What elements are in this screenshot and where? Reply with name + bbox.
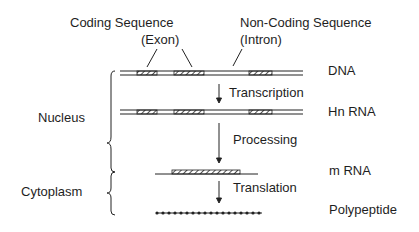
cytoplasm-brace [107, 172, 115, 215]
process-arrows [217, 84, 222, 203]
nucleus-brace [107, 71, 115, 172]
stage-dna: DNA [328, 63, 355, 78]
compartment-braces [107, 71, 115, 215]
hnrna-strand [120, 110, 303, 114]
stage-mrna: m RNA [329, 163, 371, 178]
cytoplasm-label: Cytoplasm [21, 184, 82, 199]
dna-strand [120, 71, 303, 75]
coding-sequence-label: Coding Sequence [70, 15, 173, 30]
nucleus-label: Nucleus [38, 110, 85, 125]
process-translation: Translation [233, 180, 297, 195]
stage-hnrna: Hn RNA [328, 104, 376, 119]
polypeptide-chain [155, 211, 262, 214]
process-transcription: Transcription [229, 85, 304, 100]
stage-polypeptide: Polypeptide [329, 202, 397, 217]
mrna-strand [155, 170, 258, 174]
exon-label: (Exon) [141, 32, 179, 47]
process-processing: Processing [233, 132, 297, 147]
intron-label: (Intron) [240, 32, 282, 47]
label-pointers [147, 49, 242, 67]
noncoding-sequence-label: Non-Coding Sequence [240, 15, 372, 30]
